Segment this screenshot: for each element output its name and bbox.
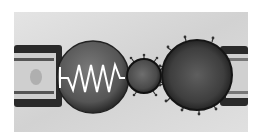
micropipette-cell-scene	[0, 0, 263, 140]
left-pipette	[14, 45, 62, 107]
